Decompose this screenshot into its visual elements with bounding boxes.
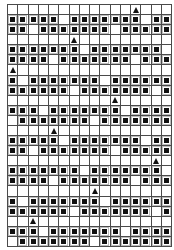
grid-cell xyxy=(29,65,39,75)
filled-square-icon xyxy=(133,78,138,83)
grid-cell xyxy=(29,186,39,196)
grid-cell xyxy=(131,186,141,196)
grid-cell xyxy=(111,227,121,237)
grid-cell xyxy=(39,65,49,75)
filled-square-icon xyxy=(123,138,128,143)
grid-cell xyxy=(162,96,172,106)
grid-cell xyxy=(162,25,172,35)
grid-cell xyxy=(100,25,110,35)
grid-cell xyxy=(111,176,121,186)
grid-cell xyxy=(162,86,172,96)
filled-square-icon xyxy=(133,239,138,244)
grid-cell xyxy=(59,146,69,156)
filled-square-icon xyxy=(51,199,56,204)
filled-square-icon xyxy=(92,27,97,32)
grid-cell xyxy=(141,86,151,96)
filled-square-icon xyxy=(51,239,56,244)
filled-square-icon xyxy=(123,178,128,183)
grid-cell xyxy=(8,106,18,116)
grid-cell xyxy=(29,217,39,227)
filled-square-icon xyxy=(113,199,118,204)
grid-cell xyxy=(141,136,151,146)
filled-square-icon xyxy=(20,209,25,214)
filled-square-icon xyxy=(72,47,77,52)
filled-square-icon xyxy=(31,178,36,183)
grid-cell xyxy=(131,65,141,75)
grid-cell xyxy=(18,176,28,186)
grid-cell xyxy=(100,227,110,237)
grid-cell xyxy=(121,146,131,156)
filled-square-icon xyxy=(123,88,128,93)
filled-square-icon xyxy=(41,239,46,244)
grid-cell xyxy=(59,116,69,126)
triangle-icon xyxy=(30,218,36,224)
grid-cell xyxy=(8,5,18,15)
filled-square-icon xyxy=(154,47,159,52)
grid-cell xyxy=(29,126,39,136)
grid-cell xyxy=(111,35,121,45)
grid-cell xyxy=(29,166,39,176)
grid-cell xyxy=(162,207,172,217)
grid-cell xyxy=(29,106,39,116)
filled-square-icon xyxy=(20,239,25,244)
grid-cell xyxy=(121,86,131,96)
filled-square-icon xyxy=(102,168,107,173)
grid-cell xyxy=(121,106,131,116)
filled-square-icon xyxy=(10,27,15,32)
filled-square-icon xyxy=(72,17,77,22)
grid-cell xyxy=(90,96,100,106)
grid-cell xyxy=(70,25,80,35)
grid-cell xyxy=(39,106,49,116)
grid-cell xyxy=(80,227,90,237)
grid-cell xyxy=(100,126,110,136)
grid-cell xyxy=(39,55,49,65)
grid-cell xyxy=(18,146,28,156)
filled-square-icon xyxy=(123,47,128,52)
filled-square-icon xyxy=(164,229,169,234)
filled-square-icon xyxy=(133,199,138,204)
filled-square-icon xyxy=(133,118,138,123)
filled-square-icon xyxy=(20,47,25,52)
grid-cell xyxy=(90,86,100,96)
filled-square-icon xyxy=(154,57,159,62)
grid-cell xyxy=(59,96,69,106)
filled-square-icon xyxy=(164,199,169,204)
grid-cell xyxy=(18,5,28,15)
grid-cell xyxy=(49,237,59,247)
grid-cell xyxy=(131,156,141,166)
filled-square-icon xyxy=(31,108,36,113)
filled-square-icon xyxy=(82,239,87,244)
grid-cell xyxy=(70,146,80,156)
grid-cell xyxy=(121,176,131,186)
grid-cell xyxy=(141,186,151,196)
filled-square-icon xyxy=(41,148,46,153)
grid-cell xyxy=(162,5,172,15)
grid-cell xyxy=(162,237,172,247)
filled-square-icon xyxy=(123,17,128,22)
filled-square-icon xyxy=(143,47,148,52)
grid-cell xyxy=(80,156,90,166)
grid-cell xyxy=(8,35,18,45)
grid-cell xyxy=(131,146,141,156)
grid-cell xyxy=(70,45,80,55)
grid-cell xyxy=(141,146,151,156)
grid-cell xyxy=(121,136,131,146)
filled-square-icon xyxy=(51,209,56,214)
filled-square-icon xyxy=(154,78,159,83)
grid-cell xyxy=(121,186,131,196)
filled-square-icon xyxy=(164,148,169,153)
grid-cell xyxy=(49,146,59,156)
grid-cell xyxy=(121,15,131,25)
grid-cell xyxy=(49,217,59,227)
grid-cell xyxy=(121,156,131,166)
filled-square-icon xyxy=(51,108,56,113)
grid-cell xyxy=(131,55,141,65)
filled-square-icon xyxy=(10,199,15,204)
grid-cell xyxy=(141,96,151,106)
grid-cell xyxy=(90,15,100,25)
filled-square-icon xyxy=(113,178,118,183)
grid-cell xyxy=(141,76,151,86)
filled-square-icon xyxy=(20,118,25,123)
filled-square-icon xyxy=(92,148,97,153)
grid-cell xyxy=(49,86,59,96)
